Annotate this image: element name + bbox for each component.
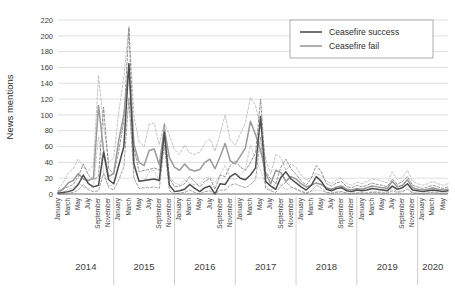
x-axis-month-label: May [195,197,203,210]
x-axis-month-label: September [337,198,345,229]
x-axis-year-label: 2018 [316,261,337,272]
x-axis-month-label: November [104,198,111,227]
x-axis-month-label: January [297,197,305,220]
x-axis-month-label: July [388,197,396,209]
x-axis-month-label: January [114,197,122,220]
x-axis-month-label: January [418,197,426,220]
x-axis-month-label: May [317,197,325,210]
x-axis-month-label: March [125,198,132,216]
x-axis-year-label: 2019 [377,261,398,272]
x-axis-month-label: July [327,197,335,209]
chart-legend[interactable]: Ceasefire successCeasefire fail [290,20,433,58]
legend-label-ceasefire-success[interactable]: Ceasefire success [329,27,399,37]
y-axis-tick-label: 20 [45,174,53,183]
y-axis-tick-label: 200 [40,32,53,41]
x-axis-month-label: March [368,198,375,216]
x-axis-month-label: May [439,197,447,210]
x-axis-month-label: November [226,198,233,227]
x-axis-month-label: March [64,198,71,216]
x-axis-month-label: March [185,198,192,216]
x-axis-month-label: May [256,197,264,210]
x-axis-month-label: July [84,197,92,209]
x-axis-month-label: July [206,197,214,209]
chart-root: 020406080100120140160180200220 News ment… [0,0,455,290]
x-axis-month-label: September [155,198,163,229]
y-axis-tick-label: 220 [40,16,53,25]
x-axis-month-label: July [145,197,153,209]
x-axis-month-label: November [408,198,415,227]
y-axis-tick-label: 100 [40,111,53,120]
x-axis-month-label: September [216,198,224,229]
y-axis-tick-label: 180 [40,47,53,56]
x-axis-month-label: September [94,198,102,229]
y-axis-title: News mentions [4,74,15,139]
x-axis-year-label: 2015 [134,261,155,272]
y-axis-tick-label: 80 [45,126,53,135]
x-axis-year-label: 2020 [422,261,443,272]
y-axis-tick-label: 60 [45,142,53,151]
y-axis-tick-label: 120 [40,95,53,104]
y-axis-tick-label: 40 [45,158,53,167]
x-axis-month-label: January [236,197,244,220]
x-axis-month-label: March [307,198,314,216]
x-axis-month-label: November [165,198,172,227]
y-axis-tick-label: 140 [40,79,53,88]
x-axis-month-label: January [358,197,366,220]
x-axis-month-label: May [135,197,143,210]
legend-label-ceasefire-fail[interactable]: Ceasefire fail [329,41,379,51]
x-axis-month-label: March [246,198,253,216]
legend-box [290,20,433,58]
x-axis-month-label: January [175,197,183,220]
x-axis-month-label: May [74,197,82,210]
x-axis-year-label: 2016 [194,261,215,272]
news-mentions-line-chart: 020406080100120140160180200220 News ment… [0,0,455,290]
x-axis-month-label: November [347,198,354,227]
x-axis-month-label: November [287,198,294,227]
x-axis-month-label: September [277,198,285,229]
x-axis-month-label: January [54,197,62,220]
y-axis-tick-label: 160 [40,63,53,72]
x-axis-month-label: September [398,198,406,229]
x-axis-year-label: 2017 [255,261,276,272]
x-axis-month-label: July [266,197,274,209]
x-axis-month-label: May [378,197,386,210]
x-axis-month-label: March [428,198,435,216]
x-axis-year-label: 2014 [75,261,96,272]
y-axis-tick-label: 0 [49,190,53,199]
